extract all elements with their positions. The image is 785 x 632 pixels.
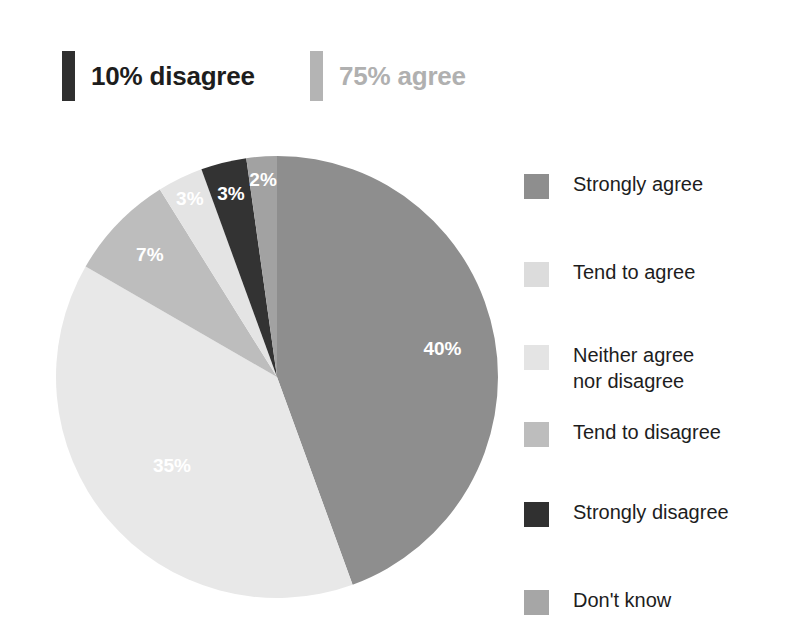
legend-label: Tend to disagree [573, 420, 721, 446]
pie-slice-label: 3% [176, 188, 204, 209]
callout-agree-label: 75% agree [339, 63, 466, 89]
legend-swatch [524, 590, 549, 615]
pie-slice-label: 2% [249, 169, 277, 190]
legend-label: Neither agree nor disagree [573, 343, 694, 394]
callout-agree: 75% agree [310, 50, 466, 102]
callout-disagree-swatch [62, 51, 75, 101]
legend-swatch [524, 345, 549, 370]
callout-disagree-label: 10% disagree [91, 63, 255, 89]
legend-swatch [524, 422, 549, 447]
pie-slice-label: 3% [217, 183, 245, 204]
legend-item[interactable]: Don't know [524, 588, 671, 615]
legend-item[interactable]: Tend to disagree [524, 420, 721, 447]
callout-disagree: 10% disagree [62, 50, 255, 102]
legend-swatch [524, 174, 549, 199]
pie-slice-label: 40% [423, 338, 461, 359]
legend-swatch [524, 262, 549, 287]
callout-agree-swatch [310, 51, 323, 101]
legend-item[interactable]: Strongly disagree [524, 500, 729, 527]
legend-item[interactable]: Neither agree nor disagree [524, 343, 694, 394]
pie-chart-svg: 40%35%7%3%3%2% [55, 155, 499, 599]
pie-slice-label: 7% [136, 244, 164, 265]
header-callouts: 10% disagree 75% agree [0, 0, 785, 130]
legend-label: Tend to agree [573, 260, 695, 286]
legend-swatch [524, 502, 549, 527]
legend-label: Strongly disagree [573, 500, 729, 526]
legend-label: Strongly agree [573, 172, 703, 198]
legend-label: Don't know [573, 588, 671, 614]
pie-chart: 40%35%7%3%3%2% [55, 155, 499, 599]
legend-item[interactable]: Tend to agree [524, 260, 695, 287]
legend-item[interactable]: Strongly agree [524, 172, 703, 199]
pie-slice-label: 35% [153, 455, 191, 476]
